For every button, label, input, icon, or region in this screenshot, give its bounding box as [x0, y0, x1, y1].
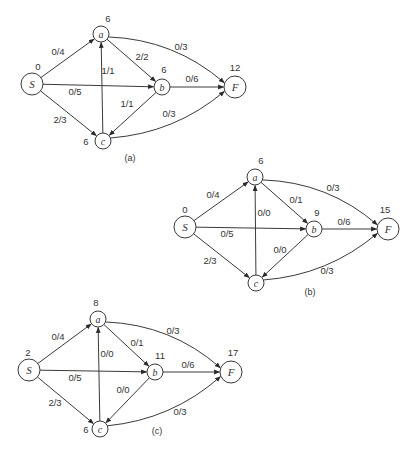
node-S: S2: [18, 347, 40, 381]
edges: 0/40/52/32/20/31/11/10/60/3: [41, 37, 225, 138]
node-potential: 0: [182, 204, 187, 215]
edge-a-F: [108, 37, 224, 83]
edge-label-S-a: 0/4: [51, 331, 64, 342]
node-label: c: [98, 424, 103, 435]
edge-S-a: [194, 182, 248, 221]
node-label: F: [231, 81, 239, 93]
node-label: c: [254, 278, 259, 289]
edge-S-c: [37, 377, 93, 424]
flow-diagram-a: 0/40/52/32/20/31/11/10/60/3S0a6b6c6F12(a…: [21, 13, 246, 163]
nodes: S0a6b9cF15: [174, 155, 399, 291]
edge-label-b-c: 0/0: [273, 244, 286, 255]
node-S: S0: [21, 61, 43, 95]
edge-S-c: [194, 234, 250, 278]
node-S: S0: [174, 204, 196, 238]
node-a: a8: [90, 297, 106, 327]
node-label: F: [227, 366, 235, 378]
diagram-caption: (c): [152, 426, 163, 436]
node-b: b11: [147, 350, 165, 380]
node-potential: 6: [161, 64, 166, 75]
edge-S-a: [41, 39, 94, 78]
network-flow-diagrams: 0/40/52/32/20/31/11/10/60/3S0a6b6c6F12(a…: [0, 0, 419, 456]
node-label: a: [99, 29, 104, 40]
edge-label-S-a: 0/4: [206, 189, 219, 200]
edge-label-b-c: 1/1: [120, 98, 133, 109]
edge-label-c-a: 0/0: [257, 207, 270, 218]
edge-label-S-a: 0/4: [51, 46, 64, 57]
edge-label-b-F: 0/6: [181, 359, 194, 370]
edge-label-S-c: 2/3: [53, 114, 66, 125]
edges: 0/40/52/30/10/30/00/00/60/3: [194, 180, 378, 280]
node-F: F17: [220, 347, 242, 383]
edge-label-b-c: 0/0: [116, 384, 129, 395]
edge-label-a-F: 0/3: [174, 41, 187, 52]
node-potential: 6: [83, 136, 88, 147]
node-b: b9: [306, 207, 322, 237]
edge-label-c-F: 0/3: [173, 406, 186, 417]
node-a: a6: [247, 155, 264, 185]
edge-c-a: [255, 185, 256, 275]
node-potential: 6: [105, 13, 110, 24]
node-potential: 15: [380, 204, 391, 215]
edge-a-F: [262, 180, 377, 225]
nodes: S2a8b11c6F17: [18, 297, 242, 437]
edge-label-S-b: 0/5: [220, 228, 233, 239]
edge-label-b-F: 0/6: [337, 216, 350, 227]
node-potential: 6: [258, 155, 263, 166]
edge-S-b: [40, 370, 147, 372]
node-b: b6: [154, 64, 170, 95]
edge-label-a-b: 0/1: [130, 337, 143, 348]
node-potential: 6: [83, 424, 88, 435]
node-c: c: [248, 275, 264, 291]
edge-label-c-a: 0/0: [100, 348, 113, 359]
node-potential: 9: [314, 207, 319, 218]
node-c: c6: [83, 421, 108, 437]
flow-diagram-c: 0/40/52/30/10/30/00/00/60/3S2a8b11c6F17(…: [18, 297, 242, 437]
node-F: F12: [224, 62, 246, 98]
edges: 0/40/52/30/10/30/00/00/60/3: [37, 322, 220, 426]
edge-label-a-b: 0/1: [289, 194, 302, 205]
node-label: S: [29, 78, 35, 90]
edge-label-S-b: 0/5: [68, 86, 81, 97]
edge-label-S-c: 2/3: [48, 397, 61, 408]
node-potential: 17: [228, 347, 239, 358]
edge-label-a-b: 2/2: [135, 51, 148, 62]
node-potential: 8: [93, 297, 98, 308]
node-label: c: [101, 136, 106, 147]
edge-label-c-F: 0/3: [162, 108, 175, 119]
node-potential: 0: [35, 61, 40, 72]
edge-label-b-F: 0/6: [185, 73, 198, 84]
nodes: S0a6b6c6F12: [21, 13, 246, 149]
edge-S-b: [43, 84, 154, 87]
node-label: F: [384, 223, 392, 235]
edge-S-c: [41, 91, 97, 136]
node-label: b: [153, 367, 158, 378]
edge-label-c-a: 1/1: [101, 65, 114, 76]
node-label: b: [160, 82, 165, 93]
flow-diagram-b: 0/40/52/30/10/30/00/00/60/3S0a6b9cF15(b): [174, 155, 399, 297]
node-potential: 2: [25, 347, 30, 358]
edge-label-c-F: 0/3: [320, 265, 333, 276]
node-label: a: [96, 314, 101, 325]
edge-S-a: [38, 324, 91, 363]
diagram-caption: (b): [305, 287, 316, 297]
node-label: S: [182, 221, 188, 233]
edge-c-a: [101, 42, 103, 133]
edge-label-a-F: 0/3: [166, 325, 179, 336]
edge-label-a-F: 0/3: [326, 182, 339, 193]
edge-S-b: [196, 227, 306, 229]
node-potential: 12: [230, 62, 241, 73]
node-c: c6: [83, 133, 111, 149]
edge-label-S-c: 2/3: [203, 255, 216, 266]
edge-c-a: [98, 327, 100, 421]
edge-label-S-b: 0/5: [68, 372, 81, 383]
diagram-caption: (a): [125, 153, 136, 163]
node-label: S: [26, 364, 32, 376]
node-a: a6: [93, 13, 111, 42]
node-label: b: [312, 224, 317, 235]
node-label: a: [253, 172, 258, 183]
edge-b-c: [262, 234, 308, 277]
node-F: F15: [377, 204, 399, 240]
node-potential: 11: [155, 350, 165, 361]
